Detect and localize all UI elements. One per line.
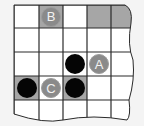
shaded-cell xyxy=(87,5,111,28)
black-stone xyxy=(17,78,37,98)
game-board: BAC xyxy=(0,0,144,126)
stone-b: B xyxy=(41,7,61,27)
stone-label: B xyxy=(47,9,56,24)
black-stone xyxy=(65,78,85,98)
stone-label: A xyxy=(95,57,104,72)
stone-c: C xyxy=(41,78,61,98)
shaded-cell xyxy=(111,5,143,28)
stone-label: C xyxy=(46,81,55,96)
stone-a: A xyxy=(89,54,109,74)
black-stone xyxy=(65,54,85,74)
